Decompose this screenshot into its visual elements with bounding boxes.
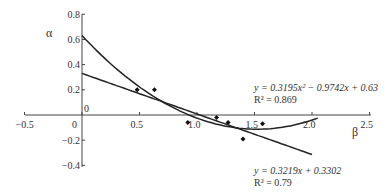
y-tick-label: 0.8: [68, 9, 81, 20]
y-tick-label: 0.4: [68, 59, 81, 70]
quadratic-equation: y = 0.3195x² − 0.9742x + 0.63: [253, 82, 378, 93]
linear-equation: y = 0.3219x + 0.3302: [253, 165, 341, 176]
y-tick-label: 0.6: [68, 34, 81, 45]
chart: −0.500.51.01.52.02.50.80.60.40.2−0.2−0.4…: [0, 0, 389, 196]
y-tick-label: −0.4: [62, 160, 80, 171]
quadratic-r2: R² = 0.869: [254, 94, 297, 105]
x-tick-label: −0.5: [16, 119, 34, 130]
x-tick-label: 0.5: [131, 119, 144, 130]
x-axis-label: β: [352, 125, 358, 139]
data-point: [152, 87, 157, 92]
x-tick-label: 1.0: [188, 119, 201, 130]
origin-label: 0: [84, 103, 89, 114]
data-point: [260, 121, 265, 126]
data-point: [241, 136, 246, 141]
y-tick-label: 0.2: [68, 84, 81, 95]
x-tick-label: 0: [72, 119, 77, 130]
data-point: [214, 115, 219, 120]
y-tick-label: −0.2: [62, 135, 80, 146]
linear-r2: R² = 0.79: [254, 177, 292, 188]
y-axis-label: α: [46, 26, 53, 40]
x-tick-label: 2.5: [361, 119, 374, 130]
